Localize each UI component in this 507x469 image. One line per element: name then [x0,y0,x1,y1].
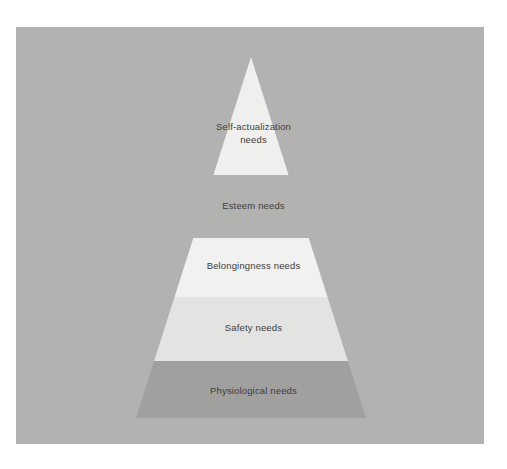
diagram-canvas: Self-actualization needs Esteem needs Be… [0,0,507,469]
tier-shape-self-actualization [213,57,288,175]
tier-shape-esteem [193,175,308,238]
tier-shape-safety [154,297,348,361]
tier-shape-belongingness [175,238,328,297]
top-clipped-caption [0,0,507,1]
pyramid-shape [16,27,484,444]
tier-shape-physiological [136,361,366,418]
